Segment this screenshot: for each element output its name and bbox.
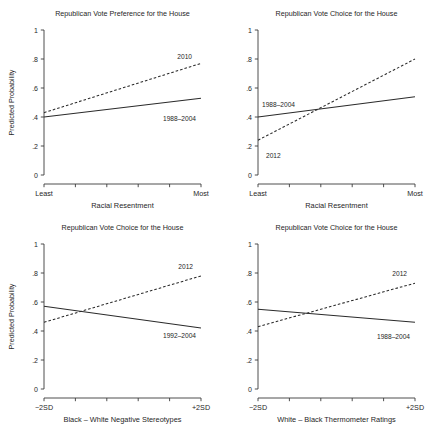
series-label: 1988–2004 [262,101,295,108]
y-tick-label: .4 [246,114,252,121]
panel-top-left-canvas: Republican Vote Preference for the House… [0,0,214,214]
series-label: 1988–2004 [377,333,410,340]
y-tick-label: .8 [32,56,38,63]
series-line-1 [44,276,201,322]
x-tick-label-min: Least [249,189,267,198]
y-tick-label: 1 [248,241,252,248]
x-tick-label-min: −2SD [249,403,267,412]
y-tick-label: .8 [246,270,252,277]
y-tick-label: 1 [34,27,38,34]
x-axis-label: White – Black Thermometer Ratings [277,415,396,424]
y-tick-label: .6 [32,85,38,92]
y-tick-label: .8 [32,270,38,277]
y-axis-label: Predicted Probability [7,283,16,349]
x-tick-label-max: +2SD [406,403,424,412]
x-axis-label: Racial Resentment [91,201,153,210]
y-tick-label: .6 [246,299,252,306]
y-tick-label: 0 [34,172,38,179]
y-tick-label: 0 [248,172,252,179]
panel-bottom-left: Republican Vote Choice for the House0.2.… [0,214,214,429]
figure-panel-grid: Republican Vote Preference for the House… [0,0,429,429]
panel-top-left: Republican Vote Preference for the House… [0,0,214,214]
x-tick-label-min: Least [35,189,53,198]
series-line-1 [44,63,201,112]
x-tick-label-max: Most [407,189,423,198]
panel-bottom-right: Republican Vote Choice for the House0.2.… [214,214,429,429]
series-line-0 [44,306,201,328]
x-axis-label: Black – White Negative Stereotypes [64,415,182,424]
panel-bottom-right-canvas: Republican Vote Choice for the House0.2.… [214,214,428,428]
panel-bottom-left-canvas: Republican Vote Choice for the House0.2.… [0,214,214,428]
x-tick-label-max: +2SD [192,403,210,412]
series-label: 2012 [178,263,193,270]
y-tick-label: .2 [32,143,38,150]
y-tick-label: 0 [34,386,38,393]
x-tick-label-min: −2SD [35,403,53,412]
y-tick-label: .6 [32,299,38,306]
panel-title: Republican Vote Preference for the House [55,9,190,18]
series-label: 1988–2004 [163,115,196,122]
y-tick-label: .2 [32,357,38,364]
y-tick-label: .8 [246,56,252,63]
y-tick-label: .6 [246,85,252,92]
series-label: 1992–2004 [163,332,196,339]
panel-title: Republican Vote Choice for the House [62,223,184,232]
y-tick-label: .4 [246,328,252,335]
x-tick-label-max: Most [193,189,209,198]
y-axis-label: Predicted Probability [7,69,16,135]
y-tick-label: .4 [32,328,38,335]
series-label: 2012 [392,270,407,277]
panel-top-right: Republican Vote Choice for the House0.2.… [214,0,429,214]
y-tick-label: .2 [246,357,252,364]
panel-title: Republican Vote Choice for the House [276,223,398,232]
y-tick-label: 1 [34,241,38,248]
y-tick-label: 1 [248,27,252,34]
x-axis-label: Racial Resentment [305,201,367,210]
panel-top-right-canvas: Republican Vote Choice for the House0.2.… [214,0,428,214]
series-label: 2012 [266,152,281,159]
y-tick-label: 0 [248,386,252,393]
y-tick-label: .2 [246,143,252,150]
panel-title: Republican Vote Choice for the House [276,9,398,18]
series-label: 2010 [177,53,192,60]
y-tick-label: .4 [32,114,38,121]
